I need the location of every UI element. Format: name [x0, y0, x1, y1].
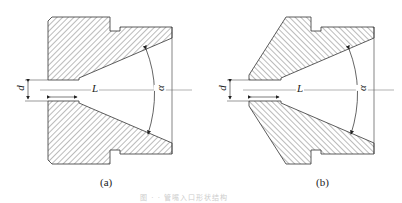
- nozzle-a: [25, 17, 192, 164]
- subfigure-label-a: (a): [100, 176, 112, 188]
- figure-caption: 图 · · 管嘴入口形状结构: [140, 192, 228, 202]
- dim-L-b: L: [296, 82, 304, 94]
- nozzle-diagram: [0, 0, 402, 203]
- dim-L-a: L: [91, 82, 99, 94]
- dim-d-a: d: [14, 85, 26, 91]
- subfigure-label-b: (b): [316, 176, 329, 188]
- dim-d-b: d: [216, 85, 228, 91]
- angle-alpha-a: α: [154, 85, 166, 91]
- nozzle-b: [227, 17, 394, 164]
- angle-alpha-b: α: [356, 85, 368, 91]
